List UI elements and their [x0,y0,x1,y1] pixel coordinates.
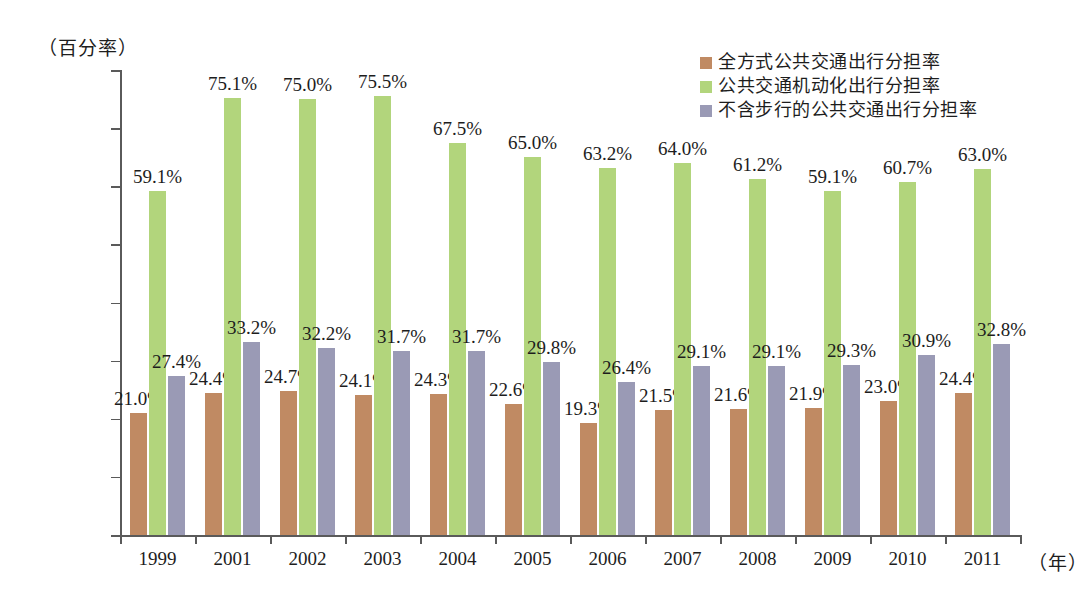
x-axis-tick-label: 2003 [364,548,402,570]
bar-value-label: 32.2% [302,323,351,345]
x-axis-tick-label: 2004 [439,548,477,570]
x-axis-tick-label: 2001 [214,548,252,570]
x-axis-unit-caption: （年） [1028,548,1079,575]
bar[interactable] [299,99,316,535]
x-axis-tick-label: 2010 [889,548,927,570]
bar-value-label: 67.5% [433,118,482,140]
bar[interactable] [355,395,372,535]
bar[interactable] [505,404,522,535]
bar[interactable] [899,182,916,535]
bar[interactable] [843,365,860,535]
bar-value-label: 65.0% [508,132,557,154]
x-axis-tick-label: 2005 [514,548,552,570]
bar[interactable] [318,348,335,535]
bar[interactable] [693,366,710,535]
y-axis-tick [111,477,120,479]
x-axis-tick-label: 2002 [289,548,327,570]
plot-area: （年） 0.0%10.0%20.0%30.0%40.0%50.0%60.0%70… [120,70,1020,535]
bar-value-label: 32.8% [977,319,1026,341]
bar[interactable] [618,382,635,535]
bar[interactable] [918,355,935,535]
x-axis-tick [795,535,797,544]
bar[interactable] [430,394,447,535]
bar[interactable] [993,344,1010,535]
legend-swatch-icon [700,57,712,69]
bar-value-label: 29.8% [527,337,576,359]
bar-value-label: 26.4% [602,357,651,379]
bar-value-label: 63.2% [583,143,632,165]
bar-value-label: 75.0% [283,74,332,96]
bar[interactable] [805,408,822,535]
y-axis-tick [111,535,120,537]
y-axis-tick [111,244,120,246]
x-axis-tick-label: 1999 [139,548,177,570]
bar-value-label: 31.7% [377,326,426,348]
x-axis-tick [195,535,197,544]
x-axis-tick-label: 2007 [664,548,702,570]
bar[interactable] [280,391,297,535]
bar-value-label: 29.1% [752,341,801,363]
x-axis-tick [345,535,347,544]
x-axis-tick-label: 2006 [589,548,627,570]
bar-value-label: 30.9% [902,330,951,352]
y-axis-unit-caption: （百分率） [38,33,138,60]
x-axis-tick [945,535,947,544]
bar[interactable] [880,401,897,535]
bar[interactable] [543,362,560,535]
x-axis-tick [720,535,722,544]
bar-value-label: 75.1% [208,73,257,95]
bar-value-label: 60.7% [883,157,932,179]
bar-value-label: 64.0% [658,138,707,160]
y-axis-tick [111,70,120,72]
y-axis-tick [111,128,120,130]
y-axis-tick [111,361,120,363]
bar[interactable] [730,409,747,535]
bar-value-label: 59.1% [133,166,182,188]
bar[interactable] [955,393,972,535]
x-axis-tick-label: 2009 [814,548,852,570]
bar[interactable] [824,191,841,535]
x-axis-tick [270,535,272,544]
bar[interactable] [130,413,147,535]
bar-value-label: 75.5% [358,71,407,93]
x-axis-tick [870,535,872,544]
bar[interactable] [393,351,410,535]
x-axis-tick-label: 2008 [739,548,777,570]
bar-value-label: 29.3% [827,340,876,362]
x-axis-tick [420,535,422,544]
bar[interactable] [974,169,991,535]
bar[interactable] [468,351,485,535]
x-axis-tick [645,535,647,544]
bar[interactable] [243,342,260,535]
bar-value-label: 61.2% [733,154,782,176]
x-axis-tick [1020,535,1022,544]
y-axis-tick [111,186,120,188]
x-axis-tick-label: 2011 [964,548,1001,570]
bar[interactable] [374,96,391,535]
x-axis-tick [570,535,572,544]
bar[interactable] [655,410,672,535]
bar-value-label: 29.1% [677,341,726,363]
bar[interactable] [768,366,785,535]
y-axis-tick [111,303,120,305]
bar[interactable] [205,393,222,535]
bar-value-label: 59.1% [808,166,857,188]
bar-value-label: 31.7% [452,326,501,348]
bar[interactable] [599,168,616,535]
bar-value-label: 33.2% [227,317,276,339]
x-axis-tick [120,535,122,544]
y-axis-line [120,70,122,535]
bar-value-label: 63.0% [958,144,1007,166]
bar[interactable] [580,423,597,535]
x-axis-tick [495,535,497,544]
y-axis-tick [111,419,120,421]
bar[interactable] [168,376,185,535]
